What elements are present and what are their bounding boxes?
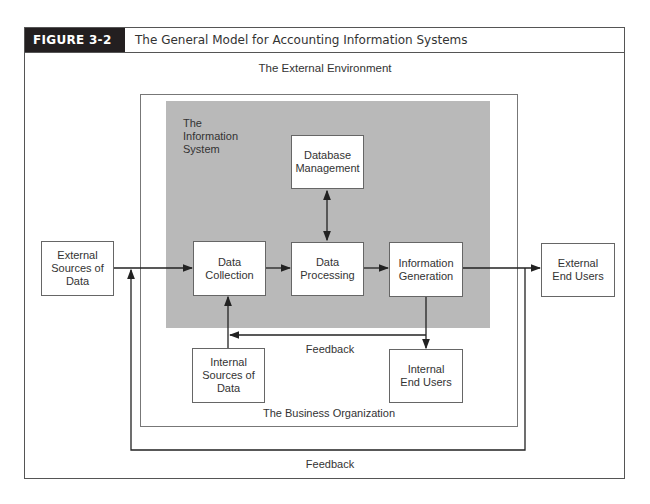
flow-arrows — [0, 0, 650, 504]
outer-feedback-line — [131, 268, 525, 450]
